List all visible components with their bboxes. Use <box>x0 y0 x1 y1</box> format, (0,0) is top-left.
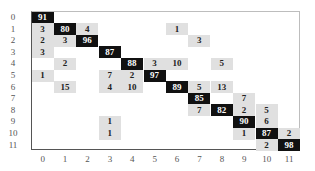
heatmap-cell: 1 <box>99 128 121 140</box>
heatmap-cell: 10 <box>121 81 143 93</box>
heatmap-cell: 3 <box>54 35 76 47</box>
heatmap-cell: 85 <box>188 93 210 105</box>
y-tick-label: 9 <box>6 116 20 126</box>
heatmap-cell: 2 <box>54 58 76 70</box>
heatmap-cell: 98 <box>278 139 300 151</box>
heatmap-cell: 3 <box>188 35 210 47</box>
heatmap-cell: 4 <box>76 23 98 35</box>
x-tick-label: 7 <box>190 154 210 164</box>
heatmap-cell: 3 <box>144 58 166 70</box>
heatmap-cell: 5 <box>211 58 233 70</box>
x-tick-label: 4 <box>122 154 142 164</box>
y-tick-label: 4 <box>6 58 20 68</box>
x-tick-label: 3 <box>100 154 120 164</box>
heatmap-cell: 97 <box>144 70 166 82</box>
heatmap-cell: 2 <box>121 70 143 82</box>
heatmap-cell: 1 <box>99 116 121 128</box>
heatmap-cell: 80 <box>54 23 76 35</box>
x-tick-label: 1 <box>55 154 75 164</box>
x-tick-label: 8 <box>212 154 232 164</box>
heatmap-cell: 15 <box>54 81 76 93</box>
confusion-matrix-chart: 9138041239633872883105172971541089513857… <box>0 0 315 171</box>
y-tick-label: 11 <box>6 140 20 150</box>
heatmap-cell: 2 <box>256 139 278 151</box>
heatmap-cell: 3 <box>32 23 54 35</box>
x-tick-label: 10 <box>257 154 277 164</box>
heatmap-cell: 91 <box>32 12 54 24</box>
heatmap-cell: 1 <box>233 128 255 140</box>
y-tick-label: 0 <box>6 12 20 22</box>
heatmap-cell: 87 <box>99 46 121 58</box>
heatmap-cell: 87 <box>256 128 278 140</box>
x-tick-label: 11 <box>279 154 299 164</box>
y-tick-label: 1 <box>6 24 20 34</box>
heatmap-cell: 89 <box>166 81 188 93</box>
heatmap-cell: 88 <box>121 58 143 70</box>
heatmap-cell: 4 <box>99 81 121 93</box>
heatmap-cell: 3 <box>32 46 54 58</box>
x-tick-label: 0 <box>33 154 53 164</box>
heatmap-cell: 10 <box>166 58 188 70</box>
heatmap-cell: 2 <box>278 128 300 140</box>
x-tick-label: 9 <box>234 154 254 164</box>
y-tick-label: 7 <box>6 93 20 103</box>
heatmap-cell: 5 <box>188 81 210 93</box>
heatmap-cell: 82 <box>211 104 233 116</box>
heatmap-cell: 90 <box>233 116 255 128</box>
y-tick-label: 5 <box>6 70 20 80</box>
heatmap-cell: 2 <box>32 35 54 47</box>
heatmap-cell: 6 <box>256 116 278 128</box>
heatmap-cell: 13 <box>211 81 233 93</box>
heatmap-cell: 1 <box>166 23 188 35</box>
x-tick-label: 2 <box>78 154 98 164</box>
y-tick-label: 8 <box>6 105 20 115</box>
heatmap-cell: 7 <box>188 104 210 116</box>
x-tick-label: 6 <box>167 154 187 164</box>
y-tick-label: 2 <box>6 35 20 45</box>
heatmap-cell: 7 <box>233 93 255 105</box>
heatmap-cell: 5 <box>256 104 278 116</box>
heatmap-cell: 96 <box>76 35 98 47</box>
y-tick-label: 3 <box>6 47 20 57</box>
y-tick-label: 6 <box>6 82 20 92</box>
heatmap-cell: 1 <box>32 70 54 82</box>
x-tick-label: 5 <box>145 154 165 164</box>
y-tick-label: 10 <box>6 128 20 138</box>
heatmap-cell: 7 <box>99 70 121 82</box>
heatmap-cell: 2 <box>233 104 255 116</box>
